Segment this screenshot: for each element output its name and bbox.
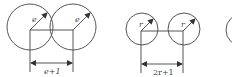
right-figure xyxy=(226,14,232,46)
middle-circle-a xyxy=(126,13,158,45)
radius-label: r xyxy=(139,20,144,29)
radius-label: e xyxy=(75,15,80,24)
dimension-label: 2r+1 xyxy=(153,68,174,77)
right-partial-circle xyxy=(226,14,232,46)
middle-figure: r r 2r+1 xyxy=(126,13,200,77)
diagram-canvas: e e e+1 r r 2r+1 xyxy=(0,0,232,77)
radius-label: e xyxy=(32,15,37,24)
middle-circle-b xyxy=(168,13,200,45)
radius-label: r xyxy=(181,20,186,29)
left-figure: e e e+1 xyxy=(7,4,96,76)
dimension-label: e+1 xyxy=(44,67,61,76)
